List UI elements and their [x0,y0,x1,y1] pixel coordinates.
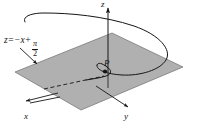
equation-fraction: π 2 [32,40,38,58]
plane-surface [15,33,183,110]
equation-term: −x [14,35,25,45]
axis-label-x: x [24,112,28,121]
equation-plus: + [25,35,31,45]
point-p-marker [103,69,107,73]
axis-label-y: y [124,112,128,121]
plane-equation-label: z=−x+ π 2 [4,36,38,58]
point-label-p: P [104,59,110,68]
math-figure: z=−x+ π 2 z x y P [0,0,198,129]
axis-label-z: z [101,0,105,9]
fraction-denominator: 2 [32,50,38,58]
figure-canvas [0,0,198,129]
